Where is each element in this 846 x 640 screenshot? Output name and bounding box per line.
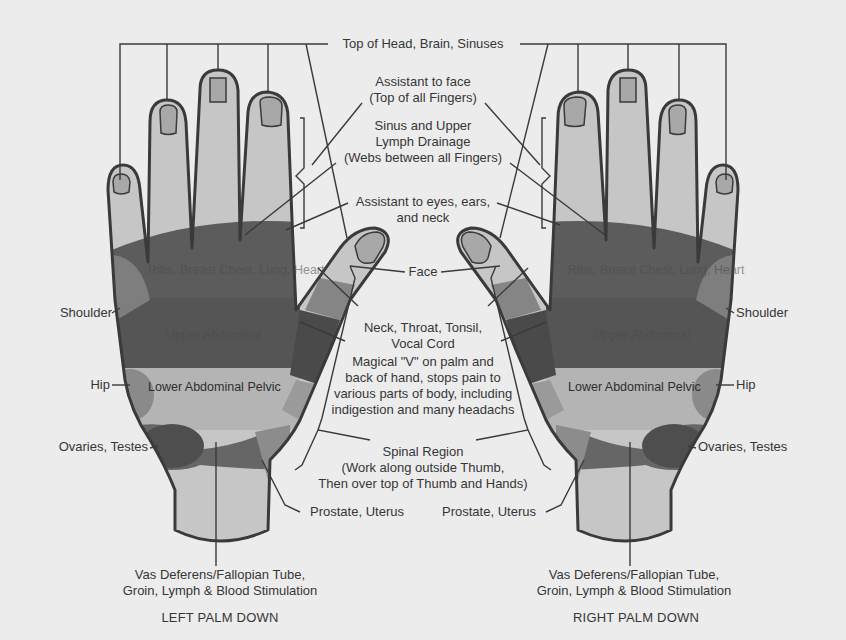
right-label-prostate: Prostate, Uterus — [434, 504, 544, 520]
left-label-ovaries: Ovaries, Testes — [30, 439, 148, 455]
left-caption: LEFT PALM DOWN — [140, 610, 300, 625]
label-neck-throat: Neck, Throat, Tonsil, Vocal Cord — [355, 320, 491, 352]
left-nail-pinky — [113, 174, 130, 194]
label-magical-v: Magical "V" on palm and back of hand, st… — [323, 354, 523, 418]
left-zone-lower-abdominal-label: Lower Abdominal Pelvic — [148, 379, 278, 395]
label-face: Face — [403, 264, 443, 280]
left-nail-index — [260, 97, 282, 127]
right-zone-upper-abdominal-label: Upper Abdominal — [572, 327, 712, 343]
left-label-prostate: Prostate, Uterus — [302, 504, 412, 520]
right-zone-lower-abdominal-label: Lower Abdominal Pelvic — [568, 379, 698, 395]
left-label-shoulder: Shoulder — [40, 305, 112, 321]
label-assistant-eyes: Assistant to eyes, ears, and neck — [345, 194, 501, 226]
left-label-hip: Hip — [70, 377, 110, 393]
right-label-shoulder: Shoulder — [736, 305, 808, 321]
left-zone-upper-abdominal-label: Upper Abdominal — [144, 327, 284, 343]
left-nail-middle — [210, 78, 226, 102]
label-assistant-face: Assistant to face (Top of all Fingers) — [360, 74, 486, 106]
left-zone-ribs-label: Ribs, Breast Chest, Lung, Heart — [148, 262, 288, 278]
label-sinus: Sinus and Upper Lymph Drainage (Webs bet… — [337, 118, 509, 166]
right-label-hip: Hip — [736, 377, 776, 393]
label-top-of-head: Top of Head, Brain, Sinuses — [332, 36, 514, 52]
right-zone-ribs-label: Ribs, Breast Chest, Lung, Heart — [568, 262, 708, 278]
right-label-vas-deferens: Vas Deferens/Fallopian Tube, Groin, Lymp… — [518, 567, 750, 599]
left-nail-ring — [160, 105, 177, 135]
right-caption: RIGHT PALM DOWN — [556, 610, 716, 625]
left-label-vas-deferens: Vas Deferens/Fallopian Tube, Groin, Lymp… — [104, 567, 336, 599]
hand-reflexology-diagram: Top of Head, Brain, Sinuses Assistant to… — [0, 0, 846, 640]
label-spinal-region: Spinal Region (Work along outside Thumb,… — [303, 444, 543, 492]
right-label-ovaries: Ovaries, Testes — [698, 439, 816, 455]
